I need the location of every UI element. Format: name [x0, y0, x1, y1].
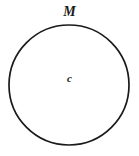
circle-center-label-c: c — [0, 73, 139, 84]
circle-arc-label-m: M — [0, 5, 139, 19]
circle-diagram-canvas: M c — [0, 0, 139, 156]
